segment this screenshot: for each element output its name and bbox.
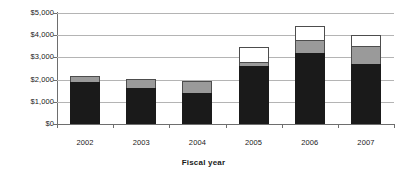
bar-segment-series-2-gray[interactable] xyxy=(295,40,325,53)
bar-group[interactable] xyxy=(295,13,325,124)
bar-segment-series-1-black[interactable] xyxy=(295,53,325,124)
y-axis-labels: $0$1,000$2,000$3,000$4,000$5,000 xyxy=(0,0,54,178)
x-tick-mark xyxy=(226,124,227,128)
bar-group[interactable] xyxy=(70,13,100,124)
bar-segment-series-1-black[interactable] xyxy=(182,93,212,124)
bar-segment-series-2-gray[interactable] xyxy=(351,46,381,64)
bar-stack[interactable] xyxy=(239,47,269,124)
y-tick-label-0: $0 xyxy=(2,120,54,128)
x-tick-label-2003: 2003 xyxy=(121,138,161,147)
x-tick-mark xyxy=(394,124,395,128)
y-tick-label-5000: $5,000 xyxy=(2,9,54,17)
bar-stack[interactable] xyxy=(295,26,325,124)
bar-stack[interactable] xyxy=(351,35,381,124)
bar-stack[interactable] xyxy=(182,81,212,124)
y-tick-label-3000: $3,000 xyxy=(2,53,54,61)
bar-segment-series-2-gray[interactable] xyxy=(126,79,156,89)
x-tick-label-2006: 2006 xyxy=(290,138,330,147)
x-axis-title: Fiscal year xyxy=(0,158,407,167)
x-tick-label-2005: 2005 xyxy=(234,138,274,147)
bar-stack[interactable] xyxy=(126,79,156,124)
bar-group[interactable] xyxy=(182,13,212,124)
y-tick-label-4000: $4,000 xyxy=(2,31,54,39)
bar-stack[interactable] xyxy=(70,76,100,124)
bar-group[interactable] xyxy=(351,13,381,124)
x-tick-mark xyxy=(113,124,114,128)
bar-group[interactable] xyxy=(126,13,156,124)
bar-segment-series-1-black[interactable] xyxy=(239,66,269,124)
x-tick-mark xyxy=(338,124,339,128)
x-tick-mark xyxy=(57,124,58,128)
bar-group[interactable] xyxy=(239,13,269,124)
y-tick-label-2000: $2,000 xyxy=(2,76,54,84)
bar-segment-series-2-gray[interactable] xyxy=(182,81,212,93)
x-tick-label-2007: 2007 xyxy=(346,138,386,147)
bar-segment-series-3-white[interactable] xyxy=(239,47,269,61)
x-tick-label-2004: 2004 xyxy=(177,138,217,147)
bar-segment-series-1-black[interactable] xyxy=(351,64,381,124)
stacked-bar-chart: $0$1,000$2,000$3,000$4,000$5,000 Fiscal … xyxy=(0,0,407,178)
x-tick-mark xyxy=(282,124,283,128)
bar-segment-series-1-black[interactable] xyxy=(126,88,156,124)
bars-layer xyxy=(57,13,394,124)
bar-segment-series-3-white[interactable] xyxy=(351,35,381,47)
x-tick-label-2002: 2002 xyxy=(65,138,105,147)
y-tick-label-1000: $1,000 xyxy=(2,98,54,106)
bar-segment-series-1-black[interactable] xyxy=(70,82,100,124)
bar-segment-series-3-white[interactable] xyxy=(295,26,325,39)
x-tick-mark xyxy=(169,124,170,128)
